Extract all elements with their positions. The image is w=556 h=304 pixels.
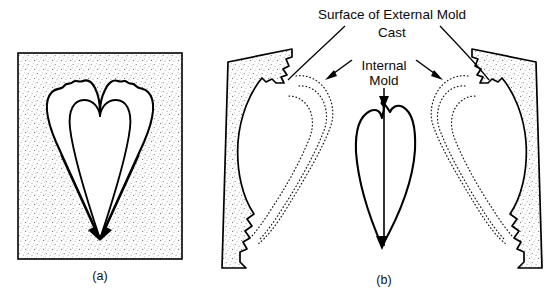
label-internal-mold-line1: Internal — [361, 58, 406, 73]
panel-b-caption: (b) — [376, 273, 391, 287]
arrow-internal-mold-apex — [376, 236, 388, 250]
arrow-internal-mold-down — [379, 88, 389, 108]
panel-a-group: (a) — [18, 53, 182, 283]
panel-b-left-dotted-outer — [258, 76, 333, 244]
label-cast: Cast — [378, 25, 406, 40]
arrow-internal-mold-right — [416, 60, 443, 80]
panel-b-right-dotted-outer — [431, 76, 506, 244]
arrow-internal-mold-left — [325, 60, 352, 80]
figure-canvas: (a) Surface of External Mold Cast Int — [0, 0, 556, 304]
panel-b-right-dotted-inner — [452, 96, 512, 236]
panel-b-right-dotted-mid — [437, 86, 505, 240]
panel-b-left-dotted-inner — [252, 96, 312, 236]
fossil-mold-cast-figure: (a) Surface of External Mold Cast Int — [0, 0, 556, 304]
panel-b-group: Surface of External Mold Cast Internal M… — [222, 7, 542, 288]
panel-a-caption: (a) — [92, 269, 107, 283]
panel-b-left-dotted-mid — [259, 86, 327, 240]
panel-b-left-matrix-block — [222, 49, 292, 268]
label-internal-mold-line2: Mold — [369, 73, 398, 88]
panel-b-right-matrix-block — [472, 49, 542, 268]
label-surface-external-mold: Surface of External Mold — [318, 7, 466, 22]
panel-b-internal-mold — [356, 102, 415, 246]
